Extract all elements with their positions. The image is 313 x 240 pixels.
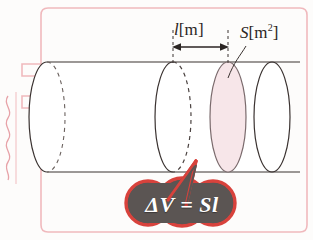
wavy-decoration: [6, 92, 16, 184]
slice-face-disk: [210, 62, 246, 172]
length-label: l[m]: [174, 21, 204, 38]
area-symbol: S: [240, 23, 249, 42]
area-label: S[m2]: [240, 24, 279, 41]
figure-canvas: l[m] S[m2] ΔV = Sl: [0, 0, 313, 240]
length-unit: [m]: [179, 20, 204, 39]
cylinder: [29, 62, 300, 172]
area-unit-close: ]: [273, 23, 279, 42]
wavy-line-outer: [6, 96, 9, 180]
area-unit-open: [m: [249, 23, 268, 42]
